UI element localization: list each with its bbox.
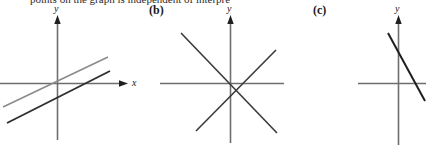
plot-c — [284, 0, 426, 150]
x-axis-arrow-a — [119, 80, 128, 86]
y-axis-arrow-c — [395, 15, 401, 24]
plot-a — [0, 0, 142, 150]
figure-panel-b: (b) y — [142, 0, 284, 150]
y-axis-label-a: y — [54, 3, 58, 14]
y-axis-arrow-b — [227, 15, 233, 24]
x-axis-label-a: x — [132, 77, 136, 88]
figure-panel-a: y x — [0, 0, 142, 150]
y-axis-label-c: y — [395, 3, 399, 14]
figure-panel-c: (c) y — [284, 0, 426, 150]
plot-b — [142, 0, 284, 150]
y-axis-arrow-a — [54, 15, 60, 24]
y-axis-label-b: y — [227, 3, 231, 14]
data-line-c1 — [388, 33, 425, 101]
